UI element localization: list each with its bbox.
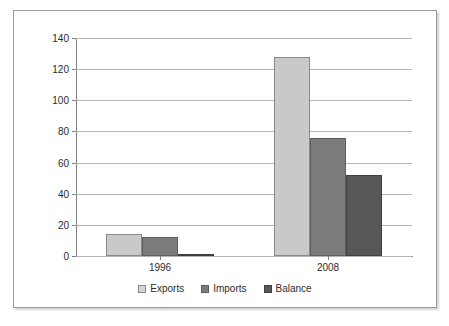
- y-axis-label: 80: [58, 126, 69, 137]
- y-axis-label: 140: [52, 33, 69, 44]
- bar-exports-1996: [106, 234, 142, 256]
- bar-exports-2008: [274, 57, 310, 256]
- legend-swatch-icon: [138, 285, 146, 293]
- gridline: [76, 69, 412, 70]
- bar-balance-1996: [178, 254, 214, 256]
- chart-frame: 020406080100120140 ExportsImportsBalance…: [13, 10, 437, 308]
- legend-swatch-icon: [264, 285, 272, 293]
- gridline: [76, 163, 412, 164]
- chart-legend: ExportsImportsBalance: [14, 283, 436, 294]
- gridline: [76, 38, 412, 39]
- legend-label: Balance: [276, 283, 312, 294]
- y-axis-tick: [72, 225, 76, 226]
- y-axis-label: 100: [52, 95, 69, 106]
- bar-imports-1996: [142, 237, 178, 256]
- y-axis-tick: [72, 100, 76, 101]
- y-axis-label: 120: [52, 64, 69, 75]
- y-axis-tick: [72, 256, 76, 257]
- x-axis-label-2008: 2008: [317, 262, 339, 273]
- y-axis-tick: [72, 131, 76, 132]
- y-axis-tick: [72, 163, 76, 164]
- x-axis-label-1996: 1996: [149, 262, 171, 273]
- legend-swatch-icon: [201, 285, 209, 293]
- plot-area: 020406080100120140: [76, 38, 412, 256]
- bar-imports-2008: [310, 138, 346, 256]
- x-axis-tick: [160, 256, 161, 260]
- legend-item-exports[interactable]: Exports: [138, 283, 184, 294]
- legend-label: Exports: [150, 283, 184, 294]
- bar-balance-2008: [346, 175, 382, 256]
- y-axis-label: 20: [58, 219, 69, 230]
- y-axis-tick: [72, 69, 76, 70]
- gridline: [76, 100, 412, 101]
- x-axis-tick: [328, 256, 329, 260]
- legend-item-imports[interactable]: Imports: [201, 283, 246, 294]
- y-axis-tick: [72, 194, 76, 195]
- y-axis-tick: [72, 38, 76, 39]
- gridline: [76, 256, 412, 257]
- gridline: [76, 131, 412, 132]
- y-axis-label: 40: [58, 188, 69, 199]
- y-axis-label: 60: [58, 157, 69, 168]
- y-axis-label: 0: [63, 251, 69, 262]
- legend-label: Imports: [213, 283, 246, 294]
- legend-item-balance[interactable]: Balance: [264, 283, 312, 294]
